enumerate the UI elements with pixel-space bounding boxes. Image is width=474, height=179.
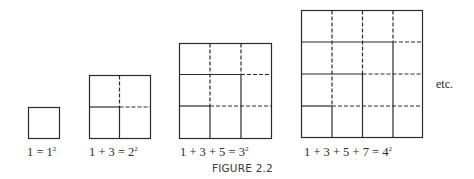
figure-caption: FIGURE 2.2 (212, 162, 273, 174)
panel-1x1-square (29, 108, 60, 139)
equation-2: 1 + 3 = 22 (89, 145, 138, 159)
etc-label: etc. (436, 77, 453, 91)
panel-4x4-square (302, 11, 423, 138)
outer-square (180, 44, 272, 139)
equation-3: 1 + 3 + 5 = 32 (180, 145, 249, 159)
panel-3x3-square (180, 44, 272, 139)
outer-square (29, 108, 60, 139)
figure-2-2-odd-number-squares: 1 = 12 1 + 3 = 22 1 + 3 + 5 = 32 (0, 0, 474, 179)
equation-4: 1 + 3 + 5 + 7 = 42 (304, 145, 392, 159)
panel-2x2-square (90, 76, 151, 139)
equation-1: 1 = 12 (27, 145, 57, 159)
